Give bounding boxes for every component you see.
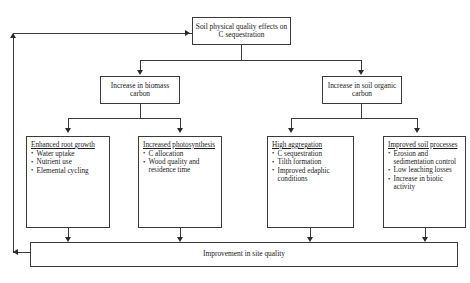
feedback-arrow-up-corner xyxy=(10,33,16,38)
node-increase-biomass-carbon-label: Increase in biomass carbon xyxy=(101,82,179,99)
node-increase-soil-organic-carbon-label: Increase in soil organic carbon xyxy=(323,82,401,99)
list-item: Elemental cycling xyxy=(31,167,106,175)
arrow-to-increased-photosynthesis xyxy=(177,128,183,133)
feedback-arrow-to-rail xyxy=(13,249,18,255)
leaf-bullet-list: Erosion and sedimentation control Low le… xyxy=(388,150,462,192)
soc-stem xyxy=(361,104,362,118)
list-item: Wood quality and residence time xyxy=(143,158,218,175)
leaf-bullet-list: C sequestration Tilth formation Improved… xyxy=(272,150,350,184)
list-item: Increase in biotic activity xyxy=(388,175,462,192)
rightleaf-split-bar xyxy=(291,118,417,119)
arrow-to-biomass-carbon xyxy=(137,70,143,75)
list-item: C allocation xyxy=(143,150,218,158)
list-item: Improved edaphic conditions xyxy=(272,167,350,184)
leaf-heading: High aggregation xyxy=(272,141,350,149)
leftleaf-split-bar xyxy=(68,118,180,119)
node-increase-biomass-carbon: Increase in biomass carbon xyxy=(100,76,180,104)
node-improvement-in-site-quality: Improvement in site quality xyxy=(30,242,458,267)
node-root-label: Soil physical quality effects on C seque… xyxy=(193,23,290,40)
list-item: Low leaching losses xyxy=(388,166,462,174)
arrow-to-enhanced-root-growth xyxy=(65,128,71,133)
list-item: Water uptake xyxy=(31,150,106,158)
leaf-bullet-list: C allocation Wood quality and residence … xyxy=(143,150,218,175)
node-high-aggregation: High aggregation C sequestration Tilth f… xyxy=(267,136,354,228)
node-outcome-label: Improvement in site quality xyxy=(203,250,285,258)
feedback-left-rail xyxy=(13,33,14,252)
node-improved-soil-processes: Improved soil processes Erosion and sedi… xyxy=(383,136,466,228)
feedback-top-horizontal xyxy=(13,33,192,34)
node-increase-soil-organic-carbon: Increase in soil organic carbon xyxy=(322,76,402,104)
level2-split-bar xyxy=(140,60,361,61)
biomass-stem xyxy=(140,104,141,118)
list-item: Erosion and sedimentation control xyxy=(388,150,462,167)
node-enhanced-root-growth: Enhanced root growth Water uptake Nutrie… xyxy=(26,136,110,228)
arrow-to-high-aggregation xyxy=(288,128,294,133)
leaf-heading: Enhanced root growth xyxy=(31,141,106,149)
flowchart-canvas: Soil physical quality effects on C seque… xyxy=(0,0,470,283)
list-item: Nutrient use xyxy=(31,158,106,166)
leaf-bullet-list: Water uptake Nutrient use Elemental cycl… xyxy=(31,150,106,175)
leaf-heading: Increased photosynthesis xyxy=(143,141,218,149)
list-item: Tilth formation xyxy=(272,158,350,166)
arrow-to-improved-soil-processes xyxy=(414,128,420,133)
leaf-heading: Improved soil processes xyxy=(388,141,462,149)
node-root-soil-physical-quality: Soil physical quality effects on C seque… xyxy=(192,17,291,45)
arrow-to-soil-organic-carbon xyxy=(358,70,364,75)
node-increased-photosynthesis: Increased photosynthesis C allocation Wo… xyxy=(138,136,222,228)
list-item: C sequestration xyxy=(272,150,350,158)
root-stem xyxy=(241,45,242,60)
feedback-arrow-into-root xyxy=(185,30,190,36)
